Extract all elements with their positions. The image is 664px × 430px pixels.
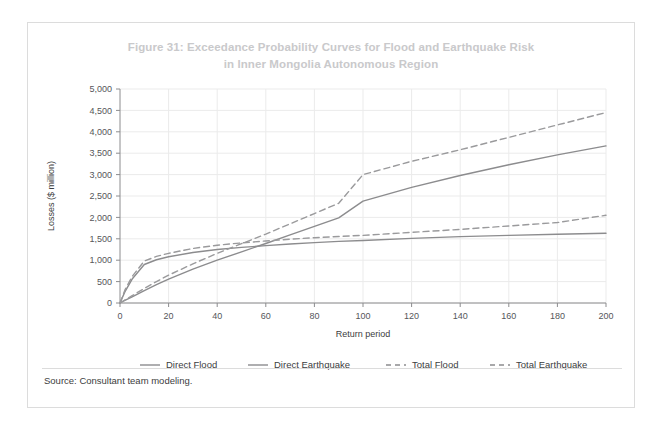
y-axis-tick-label: 3,500 (89, 148, 112, 158)
y-axis-tick-label: 5,000 (89, 84, 112, 94)
y-axis-tick-label: 3,000 (89, 170, 112, 180)
x-axis-tick-label: 20 (164, 311, 174, 321)
y-axis-tick-label: 4,000 (89, 127, 112, 137)
x-axis-tick-label: 180 (550, 311, 565, 321)
x-axis-tick-label: 100 (355, 311, 370, 321)
figure-title-line-2: in Inner Mongolia Autonomous Region (88, 56, 574, 73)
exceedance-probability-line-chart: 05001,0001,5002,0002,5003,0003,5004,0004… (28, 81, 634, 383)
x-axis-tick-label: 120 (404, 311, 419, 321)
source-note: Source: Consultant team modeling. (44, 375, 192, 386)
chart-plot-area: 05001,0001,5002,0002,5003,0003,5004,0004… (28, 81, 634, 383)
figure-title-line-1: Figure 31: Exceedance Probability Curves… (128, 41, 534, 53)
y-axis: 05001,0001,5002,0002,5003,0003,5004,0004… (89, 84, 120, 308)
x-axis-tick-label: 200 (598, 311, 613, 321)
y-axis-tick-label: 2,000 (89, 213, 112, 223)
x-axis-tick-label: 140 (453, 311, 468, 321)
x-axis-title: Return period (336, 329, 391, 339)
x-axis-tick-label: 0 (117, 311, 122, 321)
source-divider (42, 368, 622, 369)
y-axis-tick-label: 1,000 (89, 255, 112, 265)
y-axis-title: Losses ($ million) (46, 161, 56, 231)
y-axis-tick-label: 2,500 (89, 191, 112, 201)
x-axis-tick-label: 80 (309, 311, 319, 321)
grid-lines (120, 89, 606, 303)
x-axis-tick-label: 60 (261, 311, 271, 321)
y-axis-tick-label: 500 (97, 277, 112, 287)
x-axis: 020406080100120140160180200 (117, 303, 613, 321)
y-axis-tick-label: 4,500 (89, 106, 112, 116)
y-axis-tick-label: 1,500 (89, 234, 112, 244)
x-axis-tick-label: 160 (501, 311, 516, 321)
figure-card: Figure 31: Exceedance Probability Curves… (27, 22, 635, 408)
x-axis-tick-label: 40 (212, 311, 222, 321)
y-axis-tick-label: 0 (107, 298, 112, 308)
figure-title: Figure 31: Exceedance Probability Curves… (28, 23, 634, 73)
